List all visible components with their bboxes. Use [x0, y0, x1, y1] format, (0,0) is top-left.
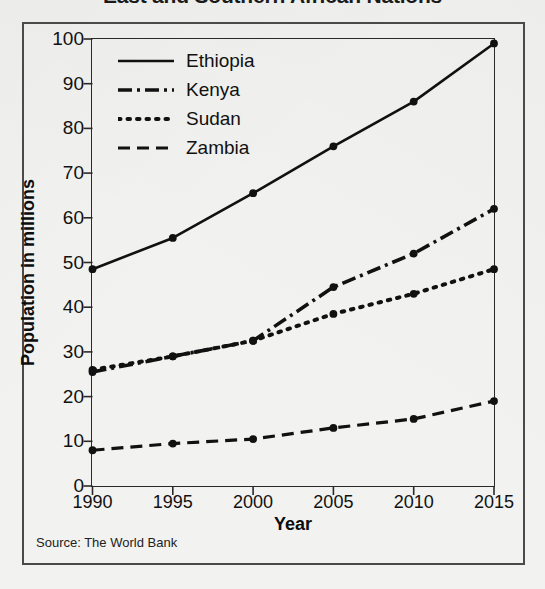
legend-label: Sudan — [186, 109, 241, 128]
y-tick-label: 90 — [28, 73, 84, 95]
legend-item-zambia: Zambia — [118, 133, 318, 162]
legend: EthiopiaKenyaSudanZambia — [118, 46, 318, 162]
x-tick-label: 1990 — [58, 492, 128, 513]
x-tick-label: 2000 — [218, 492, 288, 513]
source-note: Source: The World Bank — [36, 535, 177, 550]
legend-label: Kenya — [186, 80, 240, 99]
legend-swatch-ethiopia — [118, 54, 174, 68]
y-tick-label: 100 — [28, 28, 84, 50]
legend-label: Ethiopia — [186, 51, 255, 70]
x-tick-label: 2010 — [379, 492, 449, 513]
legend-item-ethiopia: Ethiopia — [118, 46, 318, 75]
y-tick-label: 20 — [28, 386, 84, 408]
y-tick-label: 10 — [28, 430, 84, 452]
y-tick-label: 80 — [28, 117, 84, 139]
legend-swatch-kenya — [118, 83, 174, 97]
legend-label: Zambia — [186, 138, 249, 157]
x-tick-label: 2015 — [459, 492, 529, 513]
x-tick-label: 2005 — [298, 492, 368, 513]
x-tick-label: 1995 — [138, 492, 208, 513]
legend-swatch-zambia — [118, 141, 174, 155]
legend-item-sudan: Sudan — [118, 104, 318, 133]
legend-swatch-sudan — [118, 112, 174, 126]
legend-item-kenya: Kenya — [118, 75, 318, 104]
y-axis-title: Population in millions — [18, 163, 39, 383]
x-axis-title: Year — [91, 514, 495, 535]
